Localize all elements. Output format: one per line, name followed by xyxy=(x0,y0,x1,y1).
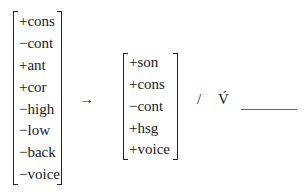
input-matrix: +cons −cont +ant +cor −high −low −back −… xyxy=(13,11,62,185)
environment-slash: / xyxy=(197,92,201,107)
feature: +cons xyxy=(129,77,165,92)
feature: −cont xyxy=(129,99,163,114)
right-bracket xyxy=(173,53,178,160)
rewrite-arrow-icon: → xyxy=(79,92,94,107)
right-bracket xyxy=(57,11,62,185)
feature: −high xyxy=(19,102,54,117)
feature: +cons xyxy=(19,14,55,29)
left-context-stressed-vowel: V́ xyxy=(218,92,229,107)
focus-blank xyxy=(241,109,297,110)
feature: +ant xyxy=(19,58,46,73)
feature: +voice xyxy=(129,142,170,157)
left-bracket xyxy=(13,11,18,185)
feature: +son xyxy=(129,55,158,70)
feature: −back xyxy=(19,145,56,160)
output-matrix: +son +cons −cont +hsg +voice xyxy=(123,53,178,160)
feature: +hsg xyxy=(129,121,158,136)
feature: −voice xyxy=(19,167,60,182)
feature: −cont xyxy=(19,36,53,51)
left-bracket xyxy=(123,53,128,160)
feature: +cor xyxy=(19,80,47,95)
feature: −low xyxy=(19,123,50,138)
